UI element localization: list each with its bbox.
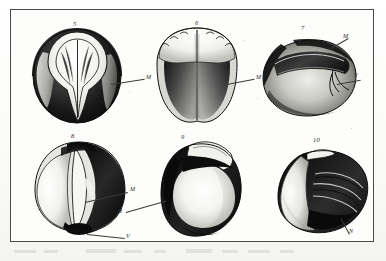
plate-inner-canvas: 5 xyxy=(11,10,373,241)
scan-speck xyxy=(311,158,312,159)
figure-6-drawing xyxy=(145,22,250,127)
figure-9-number: 9 xyxy=(181,133,184,140)
figure-8: 8 xyxy=(27,134,135,240)
illustration-plate: 5 xyxy=(0,0,386,261)
caption-smudge xyxy=(222,250,238,253)
figure-10-callout-n: N xyxy=(349,228,353,234)
scan-speck xyxy=(243,40,244,41)
scan-speck xyxy=(257,98,258,99)
scan-speck xyxy=(161,218,162,219)
figure-8-drawing xyxy=(27,134,135,240)
scan-speck xyxy=(73,210,74,211)
caption-smudge xyxy=(86,249,116,253)
figure-10-number: 10 xyxy=(313,136,320,143)
figure-7: 7 xyxy=(259,24,363,124)
figure-9: 9 xyxy=(151,136,251,241)
scan-speck xyxy=(217,54,218,55)
figure-6-number: 6 xyxy=(195,19,198,26)
figure-6: 6 xyxy=(145,22,250,127)
figure-10-drawing xyxy=(269,140,373,240)
scan-speck xyxy=(351,128,352,129)
scan-speck xyxy=(107,112,108,113)
caption-smudge xyxy=(124,250,142,253)
figure-9-drawing xyxy=(151,136,251,241)
caption-smudge-strip xyxy=(0,244,386,261)
figure-8-number: 8 xyxy=(71,132,74,139)
figure-5-number: 5 xyxy=(73,20,76,27)
plate-frame-border: 5 xyxy=(10,9,374,242)
scan-speck xyxy=(129,92,130,93)
caption-smudge xyxy=(186,249,212,253)
caption-smudge xyxy=(280,250,294,253)
caption-smudge xyxy=(44,250,58,253)
figure-5-drawing xyxy=(23,22,133,127)
caption-smudge xyxy=(14,250,36,253)
caption-smudge xyxy=(154,250,166,253)
figure-10: 10 xyxy=(269,140,373,240)
figure-7-callout-v: V xyxy=(354,72,358,78)
caption-smudge xyxy=(248,250,270,253)
figure-8-callout-v: V xyxy=(126,233,130,239)
figure-8-callout-m: M xyxy=(130,186,135,192)
figure-5: 5 xyxy=(23,22,133,127)
scan-speck xyxy=(115,42,116,43)
figure-7-number: 7 xyxy=(301,24,304,31)
figure-7-callout-m: M xyxy=(343,33,348,39)
figure-9-callout-m: M xyxy=(117,208,122,214)
